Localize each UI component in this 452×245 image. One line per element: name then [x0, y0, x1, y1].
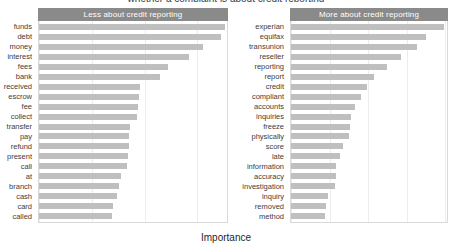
y-tick-label: received [0, 82, 35, 92]
bar-row [291, 72, 447, 82]
bar-row [39, 122, 227, 132]
y-tick-labels-right: experianequifaxtransunionresellerreporti… [232, 21, 287, 223]
facet-more-about-credit-reporting: More about credit reporting 010203040 ex… [232, 8, 452, 223]
bar-row [291, 201, 447, 211]
bar [291, 124, 350, 130]
y-tick-label: late [232, 152, 287, 162]
y-tick-label: investigation [232, 182, 287, 192]
bar-row [291, 211, 447, 221]
y-tick-label: physically [232, 132, 287, 142]
bar [39, 163, 127, 169]
y-tick-label: freeze [232, 122, 287, 132]
bar [291, 143, 343, 149]
bar [291, 173, 336, 179]
bar [39, 74, 160, 80]
y-tick-label: branch [0, 182, 35, 192]
y-tick-label: called [0, 212, 35, 222]
x-axis-right: 010203040 [291, 222, 447, 223]
bar [291, 24, 444, 30]
bar-row [291, 141, 447, 151]
bar-row [291, 22, 447, 32]
bar [39, 114, 137, 120]
bar-row [291, 181, 447, 191]
y-tick-label: compliant [232, 92, 287, 102]
bar-row [39, 22, 227, 32]
bar-row [39, 151, 227, 161]
bars-left [39, 21, 227, 222]
bar [39, 54, 189, 60]
bar-row [39, 201, 227, 211]
facet-strip-label-right: More about credit reporting [290, 8, 448, 21]
y-tick-label: accuracy [232, 172, 287, 182]
bar-row [39, 181, 227, 191]
y-tick-label: bank [0, 72, 35, 82]
bar-row [39, 82, 227, 92]
bar [39, 173, 121, 179]
bar [291, 193, 328, 199]
bar [39, 153, 128, 159]
y-tick-label: removed [232, 202, 287, 212]
bar [291, 44, 417, 50]
y-tick-label: equifax [232, 32, 287, 42]
y-tick-label: inquiry [232, 192, 287, 202]
y-tick-label: transfer [0, 122, 35, 132]
bar [39, 193, 117, 199]
bar [291, 34, 426, 40]
bars-right [291, 21, 447, 222]
bar-row [39, 62, 227, 72]
bar-row [291, 62, 447, 72]
bar [39, 133, 129, 139]
bar-row [291, 42, 447, 52]
bar [291, 104, 355, 110]
y-tick-label: method [232, 212, 287, 222]
y-tick-label: reseller [232, 52, 287, 62]
y-tick-labels-left: fundsdebtmoneyinterestfeesbankreceivedes… [0, 21, 35, 223]
y-tick-label: present [0, 152, 35, 162]
bar [291, 114, 351, 120]
bar [39, 203, 113, 209]
y-tick-label: score [232, 142, 287, 152]
bar [291, 54, 401, 60]
bar [39, 213, 112, 219]
y-tick-label: escrow [0, 92, 35, 102]
plot-area-left: 051015 [38, 21, 228, 223]
y-tick-label: report [232, 72, 287, 82]
bar-row [291, 131, 447, 141]
y-tick-label: refund [0, 142, 35, 152]
bar-row [39, 32, 227, 42]
y-tick-label: collect [0, 112, 35, 122]
bar [291, 133, 349, 139]
facet-less-about-credit-reporting: Less about credit reporting 051015 funds… [0, 8, 232, 223]
bar-row [291, 122, 447, 132]
bar [291, 213, 325, 219]
y-tick-label: at [0, 172, 35, 182]
y-tick-label: fees [0, 62, 35, 72]
bar [39, 124, 130, 130]
y-tick-label: card [0, 202, 35, 212]
bar-row [291, 161, 447, 171]
bar-row [291, 151, 447, 161]
y-tick-label: reporting [232, 62, 287, 72]
plot-area-right: 010203040 [290, 21, 448, 223]
bar [291, 94, 361, 100]
bar [39, 34, 221, 40]
bar-row [291, 92, 447, 102]
bar [39, 143, 129, 149]
y-tick-label: cash [0, 192, 35, 202]
bar-row [39, 102, 227, 112]
bar-row [39, 141, 227, 151]
bar-row [291, 171, 447, 181]
bar-row [291, 32, 447, 42]
bar-row [39, 171, 227, 181]
y-tick-label: funds [0, 22, 35, 32]
y-tick-label: credit [232, 82, 287, 92]
y-tick-label: information [232, 162, 287, 172]
x-axis-title: Importance [0, 232, 452, 243]
y-tick-label: inquiries [232, 112, 287, 122]
bar-row [39, 92, 227, 102]
bar [291, 74, 374, 80]
bar-row [39, 161, 227, 171]
bar-row [39, 112, 227, 122]
bar [39, 64, 168, 70]
facet-strip-label-left: Less about credit reporting [38, 8, 228, 21]
